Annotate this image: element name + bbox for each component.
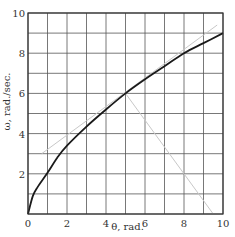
y-tick-label: 6 <box>19 88 25 99</box>
y-tick-label: 10 <box>12 8 25 19</box>
y-tick-label: 8 <box>19 48 25 59</box>
grid <box>28 13 223 214</box>
x-tick-label: 8 <box>181 218 187 229</box>
y-axis-label: ω, rad./sec. <box>1 72 12 130</box>
y-tick-label: 4 <box>19 129 25 140</box>
y-tick-label: 2 <box>19 169 25 180</box>
chart: 0246810 246810 θ, rad. ω, rad./sec. <box>0 0 235 237</box>
x-tick-label: 4 <box>103 218 109 229</box>
x-tick-label: 2 <box>64 218 70 229</box>
x-axis-label: θ, rad. <box>111 221 144 232</box>
x-tick-label: 0 <box>25 218 31 229</box>
x-tick-label: 10 <box>217 218 230 229</box>
y-tick-labels: 246810 <box>12 8 25 180</box>
